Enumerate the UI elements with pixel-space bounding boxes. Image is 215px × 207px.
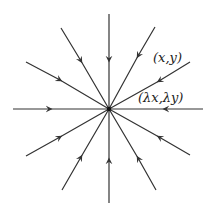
point-label: (x,y) <box>153 50 182 65</box>
scaled-point-label: (λx,λy) <box>138 90 183 105</box>
diagram: (x,y) (λx,λy) <box>0 0 215 207</box>
